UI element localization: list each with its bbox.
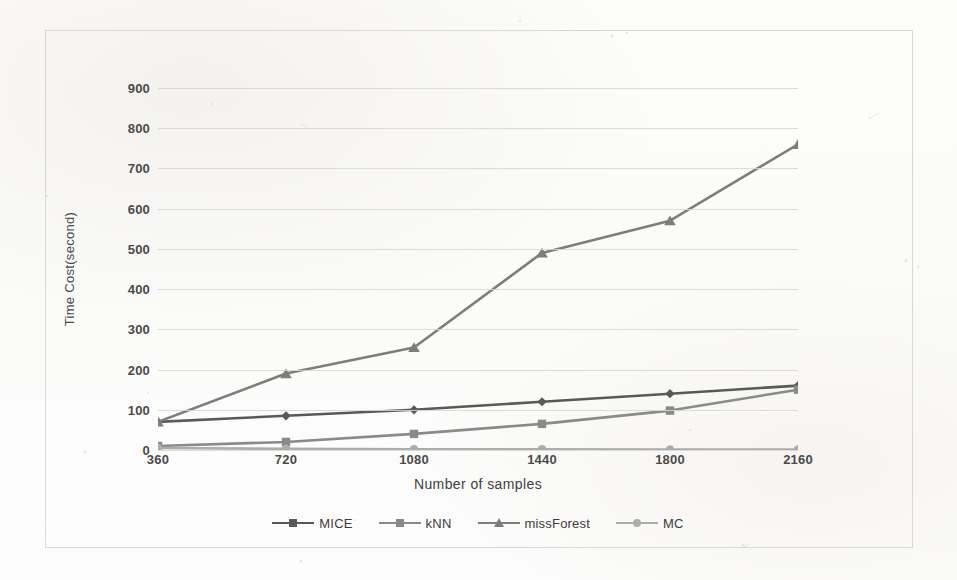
y-axis-tick-labels: 9008007006005004003002001000 bbox=[92, 88, 150, 450]
x-tick-label: 360 bbox=[123, 452, 193, 467]
gridline bbox=[158, 410, 798, 411]
gridline bbox=[158, 329, 798, 330]
y-tick-label: 700 bbox=[94, 161, 150, 176]
y-tick-label: 300 bbox=[94, 322, 150, 337]
y-tick-label: 500 bbox=[94, 241, 150, 256]
x-tick-label: 1440 bbox=[507, 452, 577, 467]
legend-label: kNN bbox=[426, 516, 452, 531]
legend-label: MC bbox=[663, 516, 684, 531]
legend-item-missforest[interactable]: missForest bbox=[478, 516, 591, 531]
gridline bbox=[158, 128, 798, 129]
legend-swatch-diamond-icon bbox=[272, 516, 314, 530]
x-axis-title: Number of samples bbox=[158, 476, 798, 492]
gridline bbox=[158, 88, 798, 89]
x-tick-label: 2160 bbox=[763, 452, 833, 467]
y-tick-label: 900 bbox=[94, 81, 150, 96]
legend-marker-triangle-icon bbox=[494, 518, 504, 527]
y-tick-label: 200 bbox=[94, 362, 150, 377]
legend-marker-square-icon bbox=[396, 519, 404, 527]
gridline bbox=[158, 289, 798, 290]
gridlines bbox=[158, 88, 798, 450]
x-axis-tick-labels: 3607201080144018002160 bbox=[158, 452, 798, 474]
legend-item-knn[interactable]: kNN bbox=[379, 516, 452, 531]
y-tick-label: 600 bbox=[94, 201, 150, 216]
gridline bbox=[158, 168, 798, 169]
legend-swatch-circle-icon bbox=[616, 516, 658, 530]
y-tick-label: 400 bbox=[94, 282, 150, 297]
gridline bbox=[158, 370, 798, 371]
legend-item-mice[interactable]: MICE bbox=[272, 516, 352, 531]
y-axis-title: Time Cost(second) bbox=[62, 212, 77, 326]
legend-label: MICE bbox=[319, 516, 352, 531]
plot-area bbox=[158, 88, 798, 450]
gridline bbox=[158, 249, 798, 250]
legend-marker-circle-icon bbox=[633, 519, 641, 527]
legend-swatch-triangle-icon bbox=[478, 516, 520, 530]
legend-marker-diamond-icon bbox=[289, 519, 297, 527]
gridline bbox=[158, 450, 798, 451]
legend-swatch-square-icon bbox=[379, 516, 421, 530]
chart-legend: MICEkNNmissForestMC bbox=[158, 510, 798, 536]
y-tick-label: 100 bbox=[94, 402, 150, 417]
x-tick-label: 720 bbox=[251, 452, 321, 467]
legend-item-mc[interactable]: MC bbox=[616, 516, 684, 531]
x-tick-label: 1800 bbox=[635, 452, 705, 467]
gridline bbox=[158, 209, 798, 210]
legend-label: missForest bbox=[525, 516, 591, 531]
x-tick-label: 1080 bbox=[379, 452, 449, 467]
y-tick-label: 800 bbox=[94, 121, 150, 136]
